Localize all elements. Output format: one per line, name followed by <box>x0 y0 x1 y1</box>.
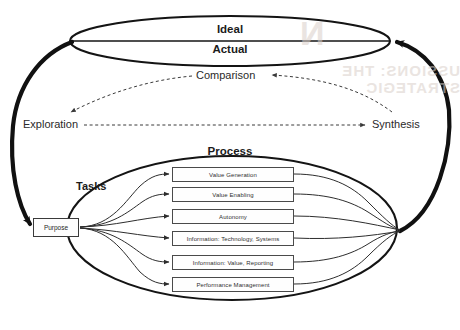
task-box-label: Autonomy <box>219 214 247 220</box>
task-box-label: Value Enabling <box>212 192 253 198</box>
feedback-arrow-left <box>12 42 72 224</box>
node-exploration: Exploration <box>23 119 78 130</box>
task-box-label: Information: Value, Reporting <box>193 260 274 266</box>
node-comparison: Comparison <box>196 70 255 81</box>
label-process: Process <box>0 146 460 158</box>
edge-synthesis-to-comparison <box>272 75 392 112</box>
task-box: Autonomy <box>172 209 294 224</box>
feedback-arrow-right <box>397 42 449 231</box>
task-box: Information: Technology, Systems <box>172 231 294 246</box>
node-synthesis: Synthesis <box>372 119 420 130</box>
diagram-canvas: N USSIONS: THE STRATEGIC Ideal Actual Co… <box>0 0 460 330</box>
label-tasks: Tasks <box>76 181 106 192</box>
node-purpose-label: Purpose <box>44 224 68 231</box>
task-box-label: Value Generation <box>209 172 257 178</box>
node-purpose: Purpose <box>33 218 79 237</box>
label-ideal: Ideal <box>0 24 460 36</box>
task-box-label: Information: Technology, Systems <box>187 236 280 242</box>
task-box: Value Enabling <box>172 187 294 202</box>
edge-comparison-to-exploration <box>71 76 192 112</box>
task-box-label: Performance Management <box>196 282 269 288</box>
task-box: Information: Value, Reporting <box>172 255 294 270</box>
task-box: Performance Management <box>172 277 294 292</box>
task-box: Value Generation <box>172 167 294 182</box>
label-actual: Actual <box>0 44 460 56</box>
task-fanin-lines <box>294 174 400 284</box>
